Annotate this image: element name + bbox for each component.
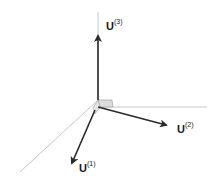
- label-u1: U (1): [79, 160, 96, 174]
- svg-text:(2): (2): [185, 121, 194, 129]
- label-u2: U (2): [177, 121, 194, 135]
- vector-u1-arrow: [72, 110, 95, 163]
- label-u3: U (3): [106, 18, 123, 32]
- basis-vector-diagram: U (3) U (2) U (1): [0, 0, 219, 184]
- right-angle-marker: [98, 100, 113, 107]
- vector-u2-arrow: [98, 107, 166, 125]
- svg-text:(1): (1): [87, 160, 96, 168]
- svg-text:U: U: [106, 20, 114, 32]
- svg-text:U: U: [79, 162, 87, 174]
- svg-text:(3): (3): [114, 18, 123, 26]
- svg-text:U: U: [177, 123, 185, 135]
